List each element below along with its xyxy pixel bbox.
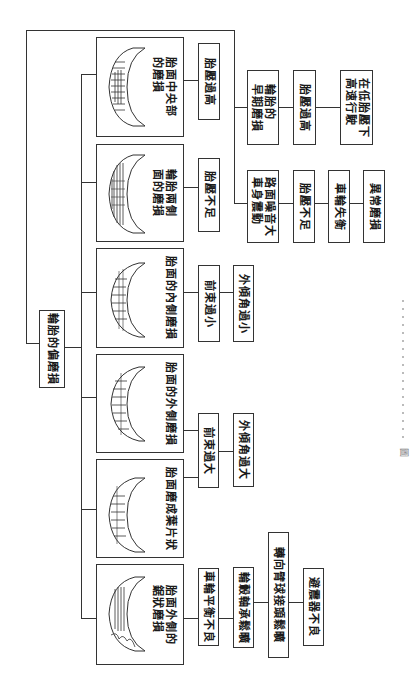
branch-label: 路面噪音大 車身震動: [250, 177, 276, 237]
connector: [279, 107, 293, 108]
cause-wheel-imbalance: 車輪平衡不良: [198, 568, 219, 646]
category-feather-wear: 胎面磨成葉片狀: [96, 459, 184, 558]
category-label: 輪胎兩側 面的磨損: [151, 169, 177, 217]
cause-label: 車輪平衡不良: [202, 571, 215, 643]
cause-toe-in-large: 前束過大: [198, 413, 219, 488]
branch-label: 異常磨損: [368, 183, 381, 231]
branch-label: 輪胎的 早期磨損: [250, 84, 276, 132]
connector: [184, 80, 198, 81]
branch-label: 車輪失衡: [333, 183, 346, 231]
connector: [64, 347, 81, 348]
connector: [26, 343, 39, 344]
root-node: 輪胎的偏磨損: [39, 310, 65, 388]
cause-low-pressure: 胎壓不足: [198, 158, 220, 232]
cause-hub-bearing-loose: 輪轂軸承鬆曠: [233, 567, 254, 648]
connector: [184, 618, 198, 619]
connector: [315, 203, 328, 204]
connector: [254, 602, 268, 603]
tire-side-wear-icon: [105, 151, 149, 237]
cause-toe-in-small: 前束過小: [198, 265, 220, 342]
category-sawtooth-wear: 胎面外側的 鋸狀磨損: [96, 564, 184, 665]
branch-early-wear-cause-detail: 在低胎壓下 高速行駛: [340, 70, 373, 145]
root-label: 輪胎的偏磨損: [46, 313, 59, 385]
branch-label: 胎壓不足: [298, 183, 311, 231]
caption-faint-text: [402, 300, 404, 440]
cause-high-pressure: 胎壓過高: [198, 43, 220, 120]
category-center-wear: 胎面中央部 的磨損: [96, 37, 184, 137]
cause-label: 轉向臂球接頭鬆曠: [272, 547, 285, 643]
category-outer-wear: 胎面的外側磨損: [96, 354, 184, 453]
branch-label: 在低胎壓下 高速行駛: [344, 78, 370, 138]
connector: [81, 618, 96, 619]
tire-sawtooth-wear-icon: [105, 571, 149, 657]
cause-label: 前束過大: [202, 427, 215, 475]
connector: [184, 477, 198, 478]
cause-label: 胎壓不足: [203, 171, 216, 219]
connector: [81, 397, 96, 398]
cause-label: 避震器不良: [307, 577, 320, 637]
branch-early-wear-cause: 胎壓過高: [293, 70, 316, 145]
tire-feather-wear-icon: [105, 472, 149, 558]
connector: [184, 187, 198, 188]
tire-outer-wear-icon: [105, 361, 149, 447]
cause-shock-absorber-bad: 避震器不良: [303, 568, 324, 646]
branch-label: 胎壓過高: [298, 84, 311, 132]
connector: [234, 30, 235, 204]
connector: [234, 203, 247, 204]
branch-noise-vibration: 路面噪音大 車身震動: [247, 170, 279, 243]
connector: [316, 107, 340, 108]
branch-early-wear: 輪胎的 早期磨損: [247, 70, 279, 145]
connector: [81, 509, 96, 510]
category-label: 胎面的內側磨損: [164, 256, 177, 340]
connector: [219, 618, 233, 619]
connector: [234, 107, 247, 108]
connector: [81, 292, 96, 293]
category-label: 胎面中央部 的磨損: [151, 57, 177, 117]
cause-camber-small: 外傾角過小: [233, 265, 254, 342]
category-both-sides-wear: 輪胎兩側 面的磨損: [96, 144, 184, 242]
connector: [81, 74, 96, 75]
cause-label: 外傾角過小: [237, 274, 250, 334]
connector: [219, 451, 233, 452]
connector: [279, 203, 293, 204]
figure-caption: 圖: [398, 300, 408, 470]
connector: [26, 30, 27, 344]
cause-label: 胎壓過高: [203, 58, 216, 106]
tire-inner-wear-icon: [105, 257, 149, 343]
category-inner-wear: 胎面的內側磨損: [96, 248, 184, 348]
connector: [184, 430, 198, 431]
cause-label: 外傾角過大: [237, 420, 250, 480]
connector: [219, 292, 233, 293]
connector: [81, 74, 82, 619]
connector: [289, 602, 303, 603]
tire-center-wear-icon: [105, 44, 149, 130]
branch-noise-abnormal-wear: 異常磨損: [363, 170, 385, 243]
connector: [184, 292, 198, 293]
caption-prefix: 圖: [398, 448, 411, 457]
category-label: 胎面外側的 鋸狀磨損: [151, 585, 177, 645]
connector: [26, 30, 234, 31]
cause-label: 前束過小: [203, 280, 216, 328]
branch-noise-low-pressure: 胎壓不足: [293, 170, 315, 243]
connector: [81, 182, 96, 183]
cause-ball-joint-loose: 轉向臂球接頭鬆曠: [268, 532, 289, 658]
branch-noise-imbalance: 車輪失衡: [328, 170, 350, 243]
connector: [350, 203, 363, 204]
cause-camber-large: 外傾角過大: [233, 413, 254, 487]
cause-label: 輪轂軸承鬆曠: [237, 572, 250, 644]
category-label: 胎面磨成葉片狀: [164, 467, 177, 551]
category-label: 胎面的外側磨損: [164, 362, 177, 446]
